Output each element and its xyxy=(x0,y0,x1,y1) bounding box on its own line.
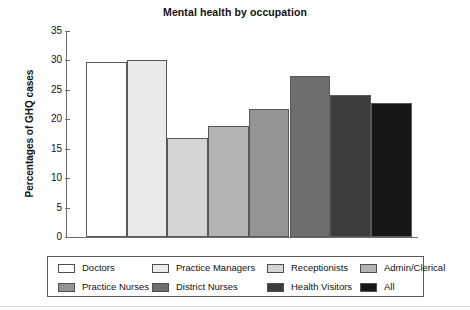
y-axis-tick-label: 35 xyxy=(51,26,62,36)
legend-swatch-icon xyxy=(152,264,169,273)
legend-label: Health Visitors xyxy=(291,282,352,292)
legend-item[interactable]: Admin/Clerical xyxy=(360,258,445,278)
legend-swatch-icon xyxy=(58,283,75,292)
legend-label: Practice Nurses xyxy=(82,282,149,292)
legend-label: All xyxy=(384,282,395,292)
y-axis-tick-label: 30 xyxy=(51,55,62,65)
y-axis-tick xyxy=(65,149,70,150)
bar xyxy=(371,103,412,237)
y-axis-tick xyxy=(65,31,70,32)
legend-item[interactable]: District Nurses xyxy=(152,277,238,297)
y-axis-tick xyxy=(65,119,70,120)
y-axis-tick xyxy=(65,237,70,238)
y-axis-tick xyxy=(65,60,70,61)
legend-swatch-icon xyxy=(267,283,284,292)
y-axis-tick-label: 15 xyxy=(51,144,62,154)
y-axis-tick-label: 5 xyxy=(56,203,62,213)
chart-title: Mental health by occupation xyxy=(0,6,470,18)
bar xyxy=(290,76,331,237)
bar xyxy=(86,62,127,237)
bar xyxy=(330,95,371,237)
legend-swatch-icon xyxy=(360,283,377,292)
legend-swatch-icon xyxy=(267,264,284,273)
y-axis-tick-label: 25 xyxy=(51,85,62,95)
y-axis-tick xyxy=(65,90,70,91)
legend-item[interactable]: Doctors xyxy=(58,258,115,278)
legend-label: Practice Managers xyxy=(176,263,255,273)
legend-item[interactable]: All xyxy=(360,277,395,297)
y-axis-tick xyxy=(65,208,70,209)
legend-label: District Nurses xyxy=(176,282,238,292)
y-axis-title: Percentages of GHQ cases xyxy=(24,39,35,229)
bar-series xyxy=(86,31,412,238)
legend-item[interactable]: Health Visitors xyxy=(267,277,352,297)
legend-item[interactable]: Practice Nurses xyxy=(58,277,149,297)
y-axis-tick-label: 10 xyxy=(51,173,62,183)
legend-label: Doctors xyxy=(82,263,115,273)
bar xyxy=(208,126,249,237)
legend-label: Admin/Clerical xyxy=(384,263,445,273)
legend-swatch-icon xyxy=(360,264,377,273)
bottom-divider xyxy=(0,306,470,307)
y-axis-tick-label: 20 xyxy=(51,114,62,124)
chart-figure: Mental health by occupation Percentages … xyxy=(0,0,470,310)
y-axis-tick-label: 0 xyxy=(56,232,62,242)
bar xyxy=(249,109,290,237)
bar xyxy=(167,138,208,237)
chart-legend: DoctorsPractice ManagersReceptionistsAdm… xyxy=(47,256,424,297)
bar xyxy=(127,60,168,237)
legend-item[interactable]: Practice Managers xyxy=(152,258,255,278)
y-axis-tick-labels: 35302520151050 xyxy=(36,31,62,238)
legend-item[interactable]: Receptionists xyxy=(267,258,348,278)
legend-swatch-icon xyxy=(152,283,169,292)
plot-area xyxy=(66,31,418,238)
legend-row: Practice NursesDistrict NursesHealth Vis… xyxy=(48,277,425,297)
y-axis-tick xyxy=(65,178,70,179)
legend-swatch-icon xyxy=(58,264,75,273)
legend-label: Receptionists xyxy=(291,263,348,273)
legend-row: DoctorsPractice ManagersReceptionistsAdm… xyxy=(48,258,425,278)
